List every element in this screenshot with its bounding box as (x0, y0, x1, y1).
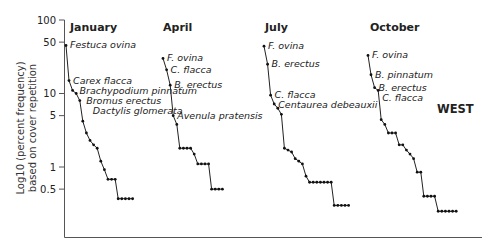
data-point (85, 132, 88, 135)
species-label: Festuca ovina (70, 39, 136, 50)
data-point (68, 79, 71, 82)
species-label: C. flacca (382, 92, 423, 103)
data-point (383, 123, 386, 126)
data-point (336, 204, 339, 207)
data-point (193, 153, 196, 156)
panel-october: OctoberF. ovinaB. pinnatumB. erectusC. f… (367, 21, 458, 213)
data-point (297, 160, 300, 163)
data-point (189, 147, 192, 150)
data-point (280, 113, 283, 116)
data-point (370, 73, 373, 76)
rank-abundance-chart: Log10 (percent frequency) based on cover… (0, 0, 492, 249)
data-point (340, 204, 343, 207)
y-tick-label: 50 (43, 37, 56, 48)
data-point (273, 103, 276, 106)
panel-july: JulyF. ovinaB. erectusC. flaccaCentaurea… (263, 21, 378, 207)
data-point (81, 120, 84, 123)
data-point (207, 163, 210, 166)
y-ticks: 1005010510.5 (37, 15, 65, 195)
data-point (451, 210, 454, 213)
series-line (163, 58, 222, 189)
y-axis-label-line1: Log10 (percent frequency) (15, 61, 26, 194)
data-point (92, 143, 95, 146)
data-point (433, 195, 436, 198)
data-point (263, 45, 266, 48)
data-point (200, 163, 203, 166)
data-point (283, 147, 286, 150)
data-point (162, 57, 165, 60)
y-tick-label: 10 (43, 88, 56, 99)
data-point (426, 195, 429, 198)
data-point (217, 188, 220, 191)
panels: JanuaryFestuca ovinaCarex flaccaBrachypo… (65, 21, 458, 213)
data-point (204, 163, 207, 166)
data-point (401, 143, 404, 146)
data-point (287, 149, 290, 152)
y-tick-label: 100 (37, 15, 56, 26)
data-point (416, 171, 419, 174)
data-point (380, 118, 383, 121)
panel-title: July (264, 21, 288, 34)
data-point (301, 163, 304, 166)
data-point (110, 178, 113, 181)
data-point (128, 197, 131, 200)
data-point (178, 147, 181, 150)
data-point (419, 171, 422, 174)
data-point (266, 63, 269, 66)
y-tick-label: 5 (50, 110, 56, 121)
data-point (78, 99, 81, 102)
data-point (172, 114, 175, 117)
data-point (169, 84, 172, 87)
data-point (422, 195, 425, 198)
y-tick-label: 0.5 (40, 184, 56, 195)
data-point (440, 210, 443, 213)
data-point (65, 44, 68, 47)
data-point (333, 204, 336, 207)
species-label: Dactylis glomerata (93, 105, 183, 116)
data-point (175, 123, 178, 126)
species-label: Centaurea debeauxii (278, 99, 378, 110)
species-label: F. ovina (167, 52, 203, 63)
data-point (305, 175, 308, 178)
species-label: Avenula pratensis (176, 110, 262, 121)
data-point (103, 168, 106, 171)
data-point (323, 181, 326, 184)
series-line (66, 46, 133, 199)
data-point (326, 181, 329, 184)
data-point (367, 54, 370, 57)
data-point (437, 210, 440, 213)
data-point (347, 204, 350, 207)
data-point (131, 197, 134, 200)
y-tick-label: 1 (50, 162, 56, 173)
data-point (294, 157, 297, 160)
data-point (319, 181, 322, 184)
data-point (308, 181, 311, 184)
data-point (312, 181, 315, 184)
data-point (165, 68, 168, 71)
data-point (124, 197, 127, 200)
panel-title: January (69, 21, 117, 34)
data-point (75, 92, 78, 95)
data-point (210, 188, 213, 191)
data-point (221, 188, 224, 191)
axes (65, 20, 483, 238)
data-point (448, 210, 451, 213)
data-point (387, 132, 390, 135)
species-label: B. erectus (174, 79, 222, 90)
data-point (89, 139, 92, 142)
data-point (430, 195, 433, 198)
data-point (182, 147, 185, 150)
data-point (373, 86, 376, 89)
data-point (391, 132, 394, 135)
data-point (344, 204, 347, 207)
data-point (120, 197, 123, 200)
data-point (330, 181, 333, 184)
data-point (444, 210, 447, 213)
species-label: F. ovina (372, 49, 408, 60)
data-point (214, 188, 217, 191)
data-point (114, 178, 117, 181)
data-point (398, 143, 401, 146)
region-label: WEST (437, 102, 474, 116)
panel-title: October (370, 21, 420, 34)
species-label: C. flacca (171, 64, 212, 75)
